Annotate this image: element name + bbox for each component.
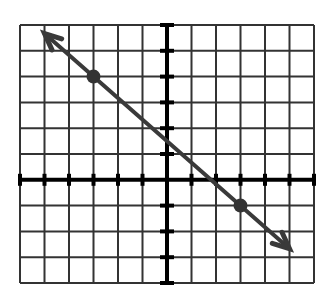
- data-point: [87, 70, 101, 84]
- data-point: [234, 199, 248, 213]
- coordinate-graph: [0, 0, 333, 299]
